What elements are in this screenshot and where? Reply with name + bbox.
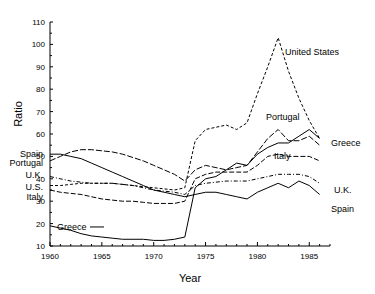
line-chart: 1020304050607080901001101960196519701975…: [0, 0, 375, 294]
x-axis-tick-label: 1965: [93, 252, 111, 261]
series-line-u-k: [50, 174, 320, 194]
y-axis-tick-label: 10: [36, 242, 45, 251]
series-label-left-portugal: Portugal: [9, 158, 43, 168]
y-axis-tick-label: 60: [36, 130, 45, 139]
y-axis-tick-label: 90: [36, 63, 45, 72]
series-label-right-greece: Greece: [331, 138, 361, 148]
series-line-italy: [50, 154, 320, 203]
x-axis-tick-label: 1985: [300, 252, 318, 261]
series-label-right-united-states: United States: [285, 47, 340, 57]
y-axis-tick-label: 70: [36, 108, 45, 117]
y-axis-title: Ratio: [12, 101, 24, 127]
y-axis-tick-label: 80: [36, 85, 45, 94]
series-label-right-italy: Italy: [274, 151, 291, 161]
series-label-right-spain: Spain: [331, 204, 354, 214]
series-label-left-us: U.S.: [25, 182, 43, 192]
x-axis-tick-label: 1980: [249, 252, 267, 261]
chart-canvas: 1020304050607080901001101960196519701975…: [0, 0, 375, 294]
series-label-left-italy: Italy: [26, 192, 43, 202]
series-label-left-uk: U.K.: [25, 170, 43, 180]
x-axis-tick-label: 1975: [197, 252, 215, 261]
series-label-right-u-k: U.K.: [334, 185, 352, 195]
y-axis-tick-label: 20: [36, 220, 45, 229]
series-label-right-portugal: Portugal: [266, 112, 300, 122]
y-axis-tick-label: 110: [32, 18, 45, 27]
x-axis-tick-label: 1970: [145, 252, 163, 261]
y-axis-tick-label: 100: [32, 40, 46, 49]
x-axis-title: Year: [179, 272, 202, 284]
series-label-greece-inline: Greece: [57, 222, 87, 232]
x-axis-tick-label: 1960: [41, 252, 59, 261]
series-line-greece: [50, 130, 320, 241]
